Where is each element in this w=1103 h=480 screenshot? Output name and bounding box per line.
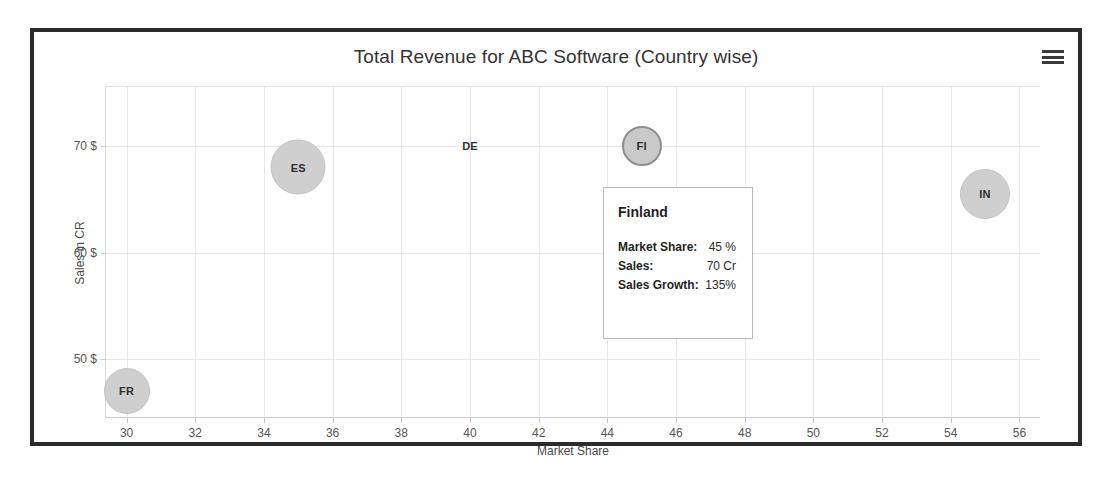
tooltip-row-key: Market Share: <box>618 238 703 257</box>
y-tick-mark <box>101 146 106 147</box>
hamburger-menu-icon[interactable] <box>1042 48 1064 66</box>
y-gridline <box>106 253 1040 254</box>
x-tick-label: 38 <box>395 426 408 440</box>
x-tick-mark <box>813 418 814 423</box>
tooltip-row-value: 70 Cr <box>707 257 736 276</box>
tooltip-rows: Market Share:45 %Sales:70 CrSales Growth… <box>618 238 736 295</box>
bubble-fr[interactable]: FR <box>104 368 150 414</box>
menu-bar-2 <box>1042 56 1064 59</box>
x-tick-mark <box>539 418 540 423</box>
bubble-label: ES <box>291 161 306 173</box>
x-tick-label: 42 <box>532 426 545 440</box>
x-tick-label: 30 <box>120 426 133 440</box>
x-axis-title: Market Share <box>106 444 1040 458</box>
chart-title: Total Revenue for ABC Software (Country … <box>34 46 1078 68</box>
x-tick-mark <box>676 418 677 423</box>
menu-bar-1 <box>1042 50 1064 53</box>
x-tick-mark <box>264 418 265 423</box>
x-tick-mark <box>470 418 471 423</box>
tooltip-row-key: Sales Growth: <box>618 276 705 295</box>
tooltip-row-value: 45 % <box>709 238 736 257</box>
bubble-label: DE <box>462 140 478 152</box>
tooltip-row: Market Share:45 % <box>618 238 736 257</box>
x-tick-label: 46 <box>669 426 682 440</box>
bubble-in[interactable]: IN <box>960 169 1010 219</box>
x-tick-label: 54 <box>944 426 957 440</box>
tooltip-row-value: 135% <box>705 276 736 295</box>
chart-widget: Total Revenue for ABC Software (Country … <box>30 28 1082 446</box>
y-tick-label: 50 $ <box>74 352 97 366</box>
menu-bar-3 <box>1042 61 1064 64</box>
x-axis-line <box>106 417 1040 418</box>
y-gridline <box>106 146 1040 147</box>
tooltip-title: Finland <box>618 204 736 220</box>
bubble-de[interactable]: DE <box>461 137 479 155</box>
bubble-fi[interactable]: FI <box>622 126 662 166</box>
x-tick-label: 50 <box>807 426 820 440</box>
x-tick-label: 44 <box>601 426 614 440</box>
x-tick-mark <box>127 418 128 423</box>
x-tick-mark <box>745 418 746 423</box>
x-tick-mark <box>882 418 883 423</box>
y-gridline <box>106 359 1040 360</box>
bubble-es[interactable]: ES <box>271 140 326 195</box>
x-tick-mark <box>401 418 402 423</box>
y-tick-label: 70 $ <box>74 139 97 153</box>
bubble-label: IN <box>979 188 990 200</box>
tooltip-row-key: Sales: <box>618 257 659 276</box>
x-tick-mark <box>195 418 196 423</box>
plot-area: 303234363840424446485052545650 $60 $70 $… <box>105 86 1040 418</box>
x-tick-label: 32 <box>189 426 202 440</box>
x-tick-mark <box>333 418 334 423</box>
bubble-label: FR <box>119 385 134 397</box>
y-tick-mark <box>101 359 106 360</box>
x-tick-mark <box>951 418 952 423</box>
bubble-tooltip: Finland Market Share:45 %Sales:70 CrSale… <box>603 187 753 339</box>
x-tick-mark <box>1019 418 1020 423</box>
x-tick-label: 48 <box>738 426 751 440</box>
x-tick-mark <box>607 418 608 423</box>
x-tick-label: 34 <box>257 426 270 440</box>
x-tick-label: 40 <box>463 426 476 440</box>
tooltip-row: Sales Growth:135% <box>618 276 736 295</box>
tooltip-row: Sales:70 Cr <box>618 257 736 276</box>
bubble-label: FI <box>637 140 647 152</box>
x-tick-label: 56 <box>1013 426 1026 440</box>
x-tick-label: 36 <box>326 426 339 440</box>
x-tick-label: 52 <box>875 426 888 440</box>
y-axis-title: Sales in CR <box>73 221 87 284</box>
y-tick-mark <box>101 253 106 254</box>
